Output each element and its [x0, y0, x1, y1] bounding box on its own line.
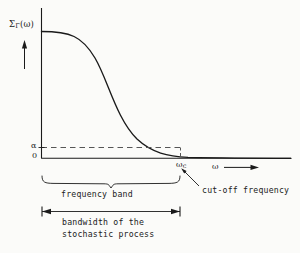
spectral-density-figure: ΣΓ(ω) α 0 ωc ω cut-off frequency frequen…	[0, 0, 300, 253]
y-axis-label-argument: (ω)	[20, 19, 34, 29]
bandwidth-dimension-line	[42, 207, 180, 217]
omega-c-symbol: ω	[176, 160, 183, 169]
zero-tick-label: 0	[32, 152, 37, 160]
x-axis-direction-arrow-icon	[224, 165, 259, 170]
plot-canvas	[0, 0, 300, 253]
cut-off-frequency-annotation: cut-off frequency	[202, 186, 289, 194]
cut-off-frequency-leader-line	[183, 170, 199, 186]
bandwidth-annotation-line-2: stochastic process	[62, 230, 154, 238]
omega-c-tick-label: ωc	[176, 161, 187, 170]
alpha-tick-label: α	[31, 142, 37, 150]
omega-c-subscript: c	[183, 162, 187, 170]
y-axis-direction-arrow-icon	[22, 40, 27, 69]
y-axis-label: ΣΓ(ω)	[9, 20, 34, 30]
x-axis-label: ω	[212, 163, 219, 171]
spectral-density-curve	[42, 32, 292, 159]
frequency-band-brace	[42, 176, 180, 188]
frequency-band-annotation: frequency band	[61, 190, 133, 198]
bandwidth-annotation-line-1: bandwidth of the	[62, 218, 144, 226]
